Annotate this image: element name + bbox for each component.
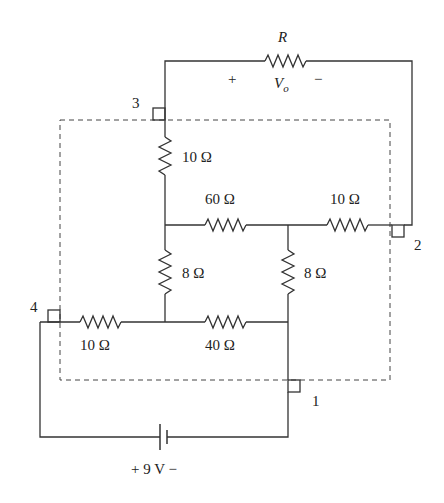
resistor-10ohm-right-icon [327,219,368,231]
vo-minus-sign: − [314,71,322,87]
r-left-vertical-label: 8 Ω [182,265,204,281]
battery-label: + 9 V − [131,461,177,477]
r-bottom-right-label: 40 Ω [205,337,235,353]
terminal-4-label: 4 [30,299,38,315]
r-right-vertical-label: 8 Ω [304,265,326,281]
vo-plus-sign: + [228,71,236,87]
terminal-2-label: 2 [414,237,422,253]
resistor-60ohm-icon [205,219,246,231]
circuit-diagram: R + − Vo 3 10 Ω 60 Ω 10 Ω 2 8 Ω 8 Ω 10 Ω… [0,0,444,503]
r-bottom-left-label: 10 Ω [80,337,110,353]
terminal-1-icon [288,380,300,392]
terminal-4-icon [48,310,60,322]
r-top-vertical-label: 10 Ω [182,149,212,165]
resistor-R-icon [265,55,306,67]
battery-loop [40,322,288,450]
r-mid-horizontal-label: 60 Ω [205,191,235,207]
load-resistor-branch [165,55,412,225]
load-resistor-label: R [277,29,287,45]
terminal-3-label: 3 [132,95,140,111]
resistor-40ohm-icon [205,316,246,328]
terminal-3-icon [153,108,165,120]
resistor-10ohm-bottom-icon [80,316,121,328]
resistor-8ohm-right-icon [282,250,294,294]
r-right-horizontal-label: 10 Ω [330,191,360,207]
terminal-1-label: 1 [312,393,320,409]
resistor-8ohm-left-icon [159,250,171,294]
resistor-10ohm-vertical-icon [159,137,171,175]
terminal-2-icon [392,225,404,237]
vo-label: Vo [274,75,289,94]
